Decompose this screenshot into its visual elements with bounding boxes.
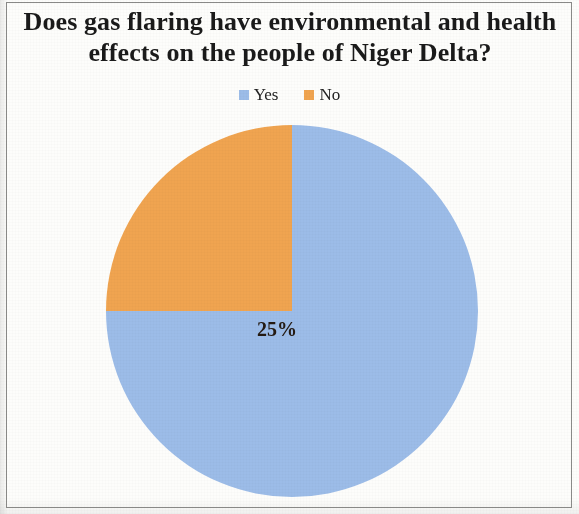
- pie-slices: [106, 125, 478, 497]
- legend-swatch-yes: [239, 90, 249, 100]
- slice-value-label-no: 25%: [257, 318, 297, 341]
- pie-chart: 25% 75%: [105, 124, 479, 498]
- page-border-right: [571, 2, 572, 508]
- legend-item-yes: Yes: [239, 86, 279, 103]
- chart-figure: Does gas flaring have environmental and …: [0, 0, 579, 514]
- page-border-top: [6, 2, 572, 3]
- legend-label-yes: Yes: [254, 86, 279, 103]
- pie-svg: [105, 124, 479, 498]
- legend-label-no: No: [319, 86, 340, 103]
- pie-slice-no: [106, 125, 292, 311]
- page-border-bottom: [6, 507, 572, 508]
- chart-title: Does gas flaring have environmental and …: [12, 6, 568, 68]
- legend-item-no: No: [304, 86, 340, 103]
- legend-swatch-no: [304, 90, 314, 100]
- page-border-left: [6, 2, 7, 508]
- chart-legend: Yes No: [0, 86, 579, 103]
